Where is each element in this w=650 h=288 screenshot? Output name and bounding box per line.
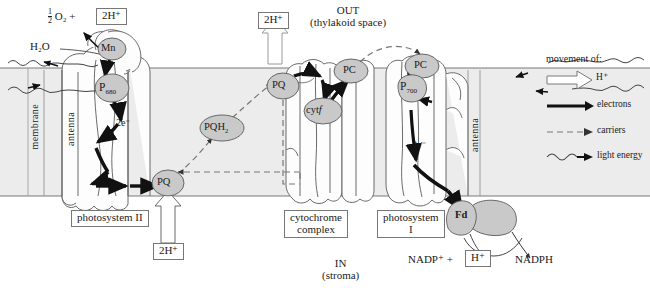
p680-sub-text: 680 bbox=[105, 88, 116, 96]
fd-label: Fd bbox=[455, 209, 467, 220]
legend-electrons-label: electrons bbox=[597, 99, 631, 109]
nadp-plus-text: NADP⁺ + bbox=[408, 253, 453, 265]
in-line-1: IN bbox=[322, 258, 359, 270]
photosystem-i-label-line-2: I bbox=[383, 224, 439, 236]
pq-top-text: PQ bbox=[272, 79, 285, 90]
photosynthesis-diagram: 1 2 O₂ + 2H⁺ H₂O 2H⁺ OUT (thylakoid spac… bbox=[0, 0, 650, 288]
pqh2-main-text: PQH bbox=[204, 121, 225, 132]
in-region-label: IN (stroma) bbox=[322, 258, 359, 281]
cytochrome-label-line-2: complex bbox=[290, 224, 342, 236]
p680-label: P680 bbox=[99, 81, 116, 97]
psii-2e-text: 2e⁻ bbox=[116, 117, 130, 128]
proton-arrow-bottom bbox=[155, 191, 181, 243]
photosystem-i-label-line-1: photosystem bbox=[383, 212, 439, 224]
h-plus-box: H⁺ bbox=[465, 250, 491, 267]
light-energy-right-arrow-2 bbox=[536, 91, 548, 92]
psi-2e-text: 2e⁻ bbox=[412, 139, 426, 150]
legend-item-carriers: carriers bbox=[597, 126, 625, 136]
nadph-text: NADPH bbox=[515, 253, 553, 265]
p700-sub-text: 700 bbox=[406, 87, 417, 95]
photosystem-i-box: photosystem I bbox=[377, 210, 445, 238]
antenna-right-text: antenna bbox=[469, 118, 480, 152]
pqh2-sub-text: 2 bbox=[225, 127, 228, 134]
pc-right-text: PC bbox=[414, 59, 427, 70]
nadph-label: NADPH bbox=[515, 254, 553, 266]
h-plus-label: H⁺ bbox=[471, 251, 485, 263]
oxygen-label: 1 2 O₂ + bbox=[48, 8, 76, 25]
cytochrome-complex-box: cytochrome complex bbox=[284, 210, 348, 238]
pc-right-label: PC bbox=[414, 59, 427, 70]
membrane-text: membrane bbox=[29, 104, 40, 149]
two-h-top-left-box: 2H⁺ bbox=[96, 8, 127, 25]
legend-item-proton: H⁺ bbox=[596, 73, 608, 83]
cytf-italic-text: f bbox=[319, 104, 322, 115]
out-region-label: OUT (thylakoid space) bbox=[310, 5, 386, 28]
photosystem-ii-box: photosystem II bbox=[71, 210, 149, 227]
legend-heading-text: movement of: bbox=[546, 53, 602, 64]
psii-2e-label: 2e⁻ bbox=[116, 118, 130, 129]
oxygen-plus-sign: + bbox=[69, 10, 75, 22]
pqh2-label: PQH2 bbox=[204, 121, 228, 135]
out-line-1: OUT bbox=[310, 5, 386, 17]
water-text: H₂O bbox=[30, 40, 50, 52]
membrane-label: membrane bbox=[30, 104, 41, 149]
nadp-plus-label: NADP⁺ + bbox=[408, 254, 453, 266]
antenna-left-label: antenna bbox=[66, 112, 77, 146]
cytochrome-label-line-1: cytochrome bbox=[290, 212, 342, 224]
mn-label: Mn bbox=[101, 42, 116, 53]
legend-heading: movement of: bbox=[546, 54, 602, 65]
pc-left-label: PC bbox=[343, 64, 356, 75]
two-h-bottom-label: 2H⁺ bbox=[159, 244, 178, 256]
pq-bottom-label: PQ bbox=[157, 176, 170, 187]
water-label: H₂O bbox=[30, 41, 50, 53]
in-line-2: (stroma) bbox=[322, 270, 359, 282]
oxygen-species: O₂ bbox=[55, 10, 67, 22]
two-h-top-center-box: 2H⁺ bbox=[258, 12, 289, 29]
p700-label: P700 bbox=[400, 80, 417, 96]
fd-text: Fd bbox=[455, 209, 467, 220]
oxygen-frac-numerator: 1 bbox=[48, 7, 52, 16]
two-h-bottom-box: 2H⁺ bbox=[153, 243, 184, 260]
legend-proton-label: H⁺ bbox=[596, 72, 608, 82]
photosystem-ii-label: photosystem II bbox=[77, 211, 143, 223]
oxygen-frac-denominator: 2 bbox=[48, 16, 52, 25]
legend-carriers-label: carriers bbox=[597, 125, 625, 135]
pq-top-label: PQ bbox=[272, 79, 285, 90]
antenna-left-text: antenna bbox=[65, 112, 76, 146]
out-line-2: (thylakoid space) bbox=[310, 17, 386, 29]
cytf-label: cytf bbox=[306, 104, 322, 115]
psi-2e-label: 2e⁻ bbox=[412, 140, 426, 151]
two-h-top-center-label: 2H⁺ bbox=[264, 13, 283, 25]
two-h-top-left-label: 2H⁺ bbox=[102, 9, 121, 21]
legend-item-electrons: electrons bbox=[597, 100, 631, 110]
diagram-graphics bbox=[0, 0, 650, 288]
cytf-main-text: cyt bbox=[306, 104, 319, 115]
legend-item-light: light energy bbox=[597, 151, 642, 161]
legend-light-label: light energy bbox=[597, 150, 642, 160]
pc-left-text: PC bbox=[343, 64, 356, 75]
pq-bottom-text: PQ bbox=[157, 176, 170, 187]
antenna-right-label: antenna bbox=[470, 118, 481, 152]
mn-text: Mn bbox=[101, 42, 116, 53]
